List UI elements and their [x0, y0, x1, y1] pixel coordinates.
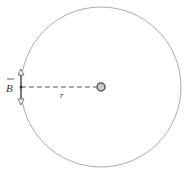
field-label: B — [6, 82, 13, 94]
wire-icon — [97, 83, 105, 91]
field-diagram: B r — [0, 0, 187, 172]
radius-label: r — [60, 90, 64, 100]
